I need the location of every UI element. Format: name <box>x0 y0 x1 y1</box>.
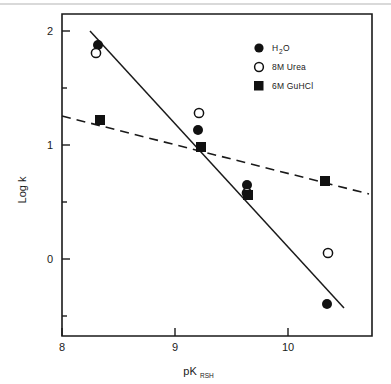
y-axis-title: Log k <box>16 176 28 203</box>
legend-item-h2o: H 2 O <box>254 43 290 55</box>
data-point <box>322 299 332 309</box>
legend-marker-open-circle-icon <box>255 63 264 72</box>
solid-fit-line <box>90 31 344 308</box>
legend-label-guhcl: 6M GuHCl <box>272 81 313 91</box>
data-point <box>95 115 105 125</box>
y-axis-ticks <box>62 31 70 316</box>
legend-marker-filled-circle-icon <box>254 43 263 52</box>
scatter-plot: 2 1 0 8 9 10 Log k pK RSH <box>0 0 391 384</box>
legend-item-guhcl: 6M GuHCl <box>254 81 313 91</box>
data-point <box>193 125 203 135</box>
y-tick-label-0: 0 <box>47 253 53 265</box>
figure-root: 2 1 0 8 9 10 Log k pK RSH <box>0 0 391 384</box>
series-urea-points <box>91 48 332 257</box>
data-point <box>320 176 330 186</box>
x-axis-title-main: pK <box>183 365 197 377</box>
legend: H 2 O 8M Urea 6M GuHCl <box>254 43 313 91</box>
data-point <box>196 142 206 152</box>
x-axis-title: pK RSH <box>183 365 214 379</box>
x-axis-title-subscript: RSH <box>200 372 214 379</box>
legend-label-h2o-main: H <box>272 43 278 53</box>
data-point <box>194 108 203 117</box>
x-tick-label-9: 9 <box>172 341 178 353</box>
legend-item-urea: 8M Urea <box>255 62 306 72</box>
x-axis-ticks <box>62 328 288 336</box>
data-point <box>243 190 253 200</box>
x-tick-label-8: 8 <box>59 341 65 353</box>
legend-label-h2o-tail: O <box>283 43 290 53</box>
y-tick-label-2: 2 <box>47 25 53 37</box>
fit-lines <box>62 31 369 308</box>
legend-marker-filled-square-icon <box>254 81 264 91</box>
data-point <box>323 248 332 257</box>
x-tick-label-10: 10 <box>282 341 294 353</box>
legend-label-urea: 8M Urea <box>272 62 306 72</box>
y-tick-label-1: 1 <box>47 139 53 151</box>
data-point <box>91 48 100 57</box>
series-guhcl-points <box>95 115 330 200</box>
